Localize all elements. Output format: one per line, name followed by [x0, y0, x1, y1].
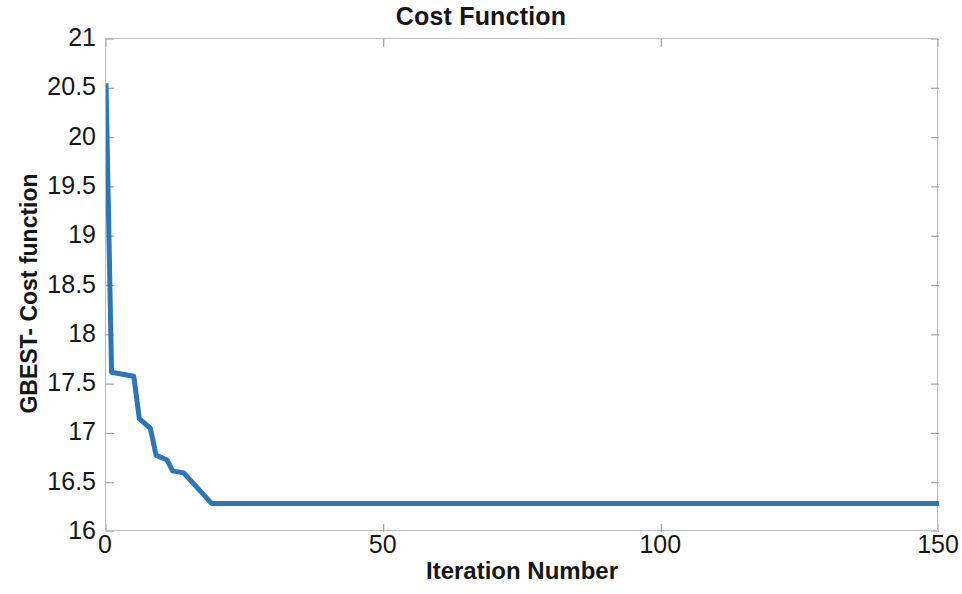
x-tick-label: 50 [338, 532, 428, 557]
cost-function-line [106, 83, 939, 503]
x-tick-label: 100 [615, 532, 705, 557]
x-tick-label: 0 [60, 532, 150, 557]
plot-svg [106, 39, 939, 532]
axis-tick-marks [106, 39, 939, 532]
plot-area [105, 38, 938, 531]
x-tick-label: 150 [893, 532, 962, 557]
chart-figure: Cost Function GBEST- Cost function Itera… [0, 0, 962, 594]
